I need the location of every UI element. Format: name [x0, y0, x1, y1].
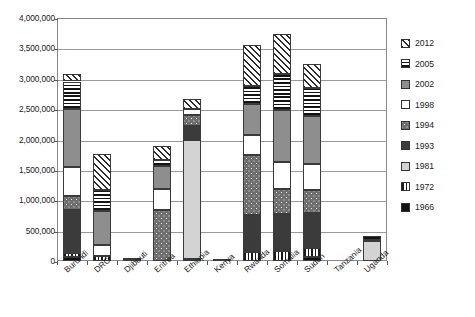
bar-segment-sudan-1998 — [303, 164, 321, 190]
bar-ethiopia[interactable] — [183, 99, 201, 261]
bar-segment-sudan-2002 — [303, 116, 321, 165]
bar-segment-drc-2012 — [93, 154, 111, 190]
legend-swatch-1972 — [401, 182, 410, 191]
bar-segment-burundi-1994 — [63, 196, 81, 210]
legend-item-1981[interactable]: 1981 — [401, 156, 471, 177]
bar-segment-drc-2005 — [93, 190, 111, 211]
legend-item-1966[interactable]: 1966 — [401, 197, 471, 218]
legend-label-2002: 2002 — [415, 79, 434, 89]
legend: 201220052002199819941993198119721966 — [401, 33, 471, 218]
bar-segment-sudan-1994 — [303, 190, 321, 213]
legend-item-1993[interactable]: 1993 — [401, 136, 471, 157]
legend-item-2012[interactable]: 2012 — [401, 33, 471, 54]
bar-somalia[interactable] — [273, 34, 291, 261]
bar-segment-ethiopia-1993 — [183, 126, 201, 140]
bar-segment-uganda-2005 — [363, 236, 381, 241]
legend-label-2005: 2005 — [415, 59, 434, 69]
bar-sudan[interactable] — [303, 64, 321, 261]
legend-label-1998: 1998 — [415, 100, 434, 110]
y-axis-tick-label: 2,000,000 — [19, 135, 55, 145]
bar-segment-rwanda-1994 — [243, 155, 261, 216]
legend-swatch-2005 — [401, 59, 410, 68]
legend-swatch-1981 — [401, 162, 410, 171]
bars-layer — [57, 18, 387, 261]
bar-segment-somalia-1998 — [273, 162, 291, 189]
bar-segment-drc-1998 — [93, 245, 111, 256]
legend-swatch-2012 — [401, 39, 410, 48]
legend-item-2002[interactable]: 2002 — [401, 74, 471, 95]
legend-swatch-2002 — [401, 80, 410, 89]
y-axis-tick-label: 2,500,000 — [19, 104, 55, 114]
bar-segment-burundi-1998 — [63, 167, 81, 196]
y-axis-tick-label: 500,000 — [26, 226, 55, 236]
bar-segment-sudan-2005 — [303, 88, 321, 116]
bar-segment-somalia-2012 — [273, 34, 291, 73]
y-axis-tick-label: 1,500,000 — [19, 165, 55, 175]
bar-segment-rwanda-1993 — [243, 215, 261, 251]
bar-segment-ethiopia-1981 — [183, 140, 201, 258]
legend-item-1994[interactable]: 1994 — [401, 115, 471, 136]
bar-rwanda[interactable] — [243, 45, 261, 261]
y-axis-tick-label: 3,500,000 — [19, 43, 55, 53]
y-axis-tick-label: 4,000,000 — [19, 13, 55, 23]
bar-segment-rwanda-1998 — [243, 135, 261, 154]
legend-item-2005[interactable]: 2005 — [401, 54, 471, 75]
y-axis-tick-label: 1,000,000 — [19, 195, 55, 205]
bar-segment-drc-2002 — [93, 211, 111, 245]
legend-label-1981: 1981 — [415, 161, 434, 171]
bar-segment-eritrea-2005 — [153, 160, 171, 166]
bar-segment-rwanda-2005 — [243, 86, 261, 104]
legend-label-1994: 1994 — [415, 120, 434, 130]
bar-eritrea[interactable] — [153, 146, 171, 261]
legend-swatch-1998 — [401, 100, 410, 109]
bar-segment-somalia-1994 — [273, 189, 291, 215]
legend-label-1966: 1966 — [415, 202, 434, 212]
legend-swatch-1994 — [401, 121, 410, 130]
legend-label-2012: 2012 — [415, 38, 434, 48]
bar-segment-eritrea-1998 — [153, 189, 171, 210]
bar-burundi[interactable] — [63, 74, 81, 261]
legend-swatch-1966 — [401, 203, 410, 212]
bar-drc[interactable] — [93, 154, 111, 261]
bar-segment-rwanda-2002 — [243, 104, 261, 136]
bar-segment-burundi-2005 — [63, 82, 81, 109]
bar-segment-somalia-1993 — [273, 214, 291, 250]
y-axis-tick-label: 3,000,000 — [19, 74, 55, 84]
stacked-bar-chart: 0500,0001,000,0001,500,0002,000,0002,500… — [0, 0, 475, 317]
bar-segment-ethiopia-1994 — [183, 115, 201, 126]
bar-segment-sudan-1993 — [303, 213, 321, 248]
bar-segment-burundi-2002 — [63, 109, 81, 167]
legend-label-1972: 1972 — [415, 182, 434, 192]
bar-segment-eritrea-2002 — [153, 166, 171, 189]
bar-segment-rwanda-2012 — [243, 45, 261, 86]
legend-item-1998[interactable]: 1998 — [401, 95, 471, 116]
x-axis-labels: BurundiDRCDjiboutiEritreaEthiopiaKenyaRw… — [0, 261, 475, 317]
bar-segment-burundi-2012 — [63, 74, 81, 82]
legend-swatch-1993 — [401, 141, 410, 150]
bar-segment-sudan-2012 — [303, 64, 321, 88]
bar-segment-somalia-2005 — [273, 74, 291, 110]
bar-segment-burundi-1993 — [63, 210, 81, 253]
legend-label-1993: 1993 — [415, 141, 434, 151]
bar-segment-ethiopia-2012 — [183, 99, 201, 109]
legend-item-1972[interactable]: 1972 — [401, 177, 471, 198]
bar-segment-eritrea-2012 — [153, 146, 171, 160]
bar-segment-ethiopia-1998 — [183, 109, 201, 115]
bar-segment-somalia-2002 — [273, 110, 291, 162]
